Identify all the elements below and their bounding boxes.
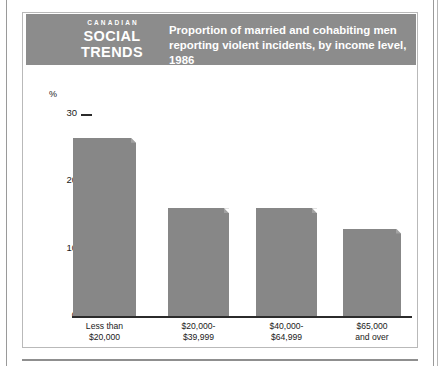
bar	[343, 229, 401, 316]
page-bottom-rule	[22, 359, 418, 361]
x-axis-label-line: $20,000	[57, 332, 153, 343]
x-axis-label: $40,000-$64,999	[239, 321, 335, 343]
y-tick-label: 10	[31, 242, 77, 253]
logo-line-canadian: CANADIAN	[70, 18, 154, 28]
y-tick-mark	[81, 114, 92, 116]
y-tick-label: 0	[31, 309, 77, 320]
x-axis-label-line: $39,999	[151, 332, 247, 343]
bar	[168, 208, 229, 316]
x-axis-line	[72, 316, 412, 318]
page-rule-right	[433, 0, 434, 366]
page-rule-right-outer	[437, 0, 438, 366]
x-axis-label-line: $65,000	[324, 321, 420, 332]
x-axis-label-line: $40,000-	[239, 321, 335, 332]
x-axis-label: $65,000and over	[324, 321, 420, 343]
figure-frame: CANADIAN SOCIAL TRENDS Proportion of mar…	[22, 12, 418, 348]
y-tick-label: 30	[31, 107, 77, 118]
x-axis-label: $20,000-$39,999	[151, 321, 247, 343]
logo-line-social: SOCIAL	[70, 28, 154, 44]
y-tick-label: 20	[31, 174, 77, 185]
page-rule-left	[6, 0, 7, 366]
x-axis-label: Less than$20,000	[57, 321, 153, 343]
x-axis-label-line: $64,999	[239, 332, 335, 343]
y-axis-unit-label: %	[49, 89, 57, 99]
bar	[256, 208, 317, 316]
x-axis-label-line: Less than	[57, 321, 153, 332]
bar	[73, 138, 136, 316]
chart-plot-area: % 0102030 Less than$20,000$20,000-$39,99…	[23, 65, 417, 348]
logo-line-trends: TRENDS	[70, 44, 154, 60]
chart-header-banner: CANADIAN SOCIAL TRENDS Proportion of mar…	[26, 14, 416, 65]
chart-title: Proportion of married and cohabiting men…	[169, 23, 409, 68]
x-axis-label-line: and over	[324, 332, 420, 343]
publication-logo: CANADIAN SOCIAL TRENDS	[70, 18, 154, 60]
x-axis-label-line: $20,000-	[151, 321, 247, 332]
